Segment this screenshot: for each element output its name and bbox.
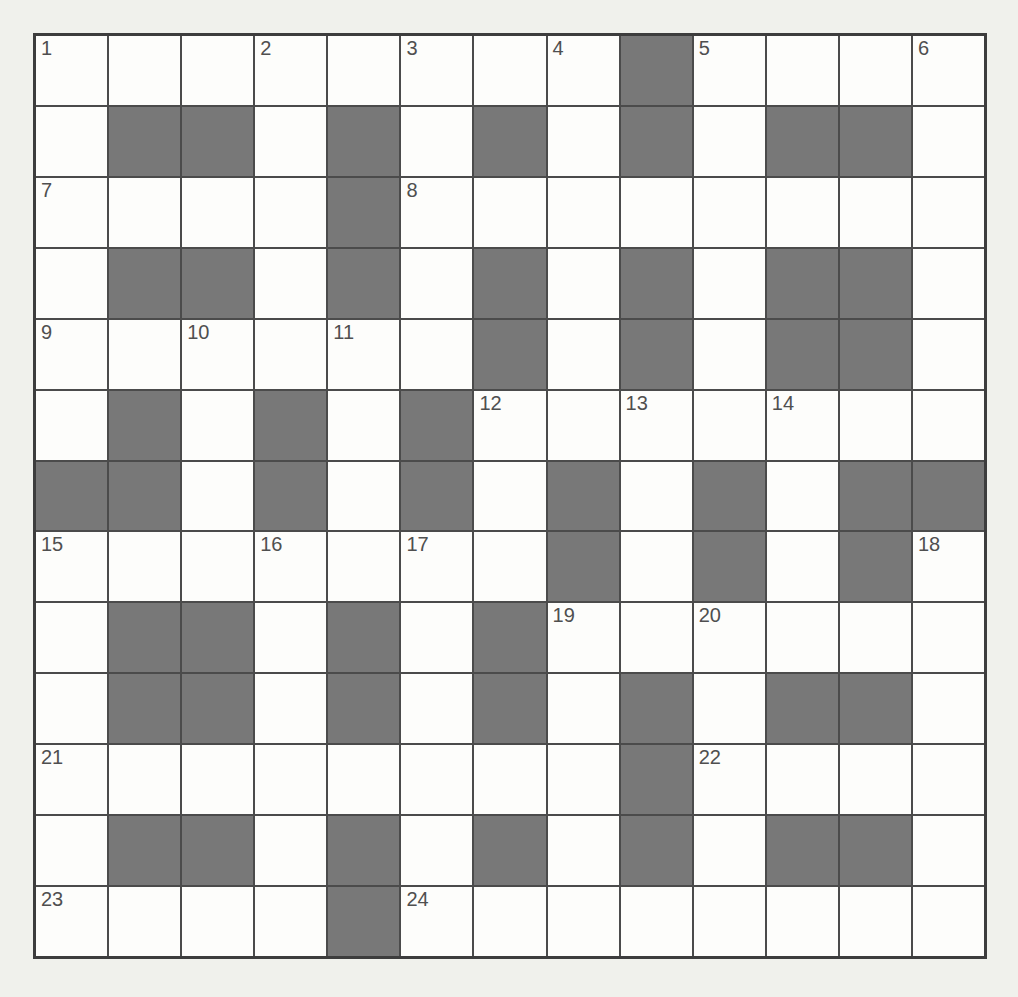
answer-cell[interactable] <box>328 745 399 814</box>
answer-cell[interactable] <box>621 603 692 672</box>
answer-cell[interactable] <box>913 745 984 814</box>
answer-cell[interactable] <box>840 745 911 814</box>
answer-cell[interactable] <box>328 462 399 531</box>
answer-cell[interactable] <box>621 887 692 956</box>
answer-cell[interactable] <box>840 887 911 956</box>
answer-cell[interactable] <box>182 178 253 247</box>
answer-cell[interactable] <box>913 249 984 318</box>
answer-cell[interactable] <box>255 745 326 814</box>
answer-cell[interactable] <box>401 249 472 318</box>
answer-cell[interactable] <box>109 178 180 247</box>
answer-cell[interactable]: 12 <box>474 391 545 460</box>
answer-cell[interactable] <box>548 249 619 318</box>
answer-cell[interactable] <box>913 816 984 885</box>
answer-cell[interactable] <box>694 249 765 318</box>
answer-cell[interactable] <box>401 603 472 672</box>
answer-cell[interactable] <box>255 107 326 176</box>
answer-cell[interactable] <box>694 816 765 885</box>
answer-cell[interactable] <box>36 603 107 672</box>
answer-cell[interactable] <box>109 745 180 814</box>
answer-cell[interactable] <box>182 532 253 601</box>
answer-cell[interactable] <box>401 107 472 176</box>
answer-cell[interactable] <box>913 674 984 743</box>
answer-cell[interactable] <box>548 816 619 885</box>
answer-cell[interactable] <box>767 36 838 105</box>
answer-cell[interactable]: 18 <box>913 532 984 601</box>
answer-cell[interactable]: 5 <box>694 36 765 105</box>
answer-cell[interactable]: 19 <box>548 603 619 672</box>
answer-cell[interactable] <box>255 603 326 672</box>
answer-cell[interactable] <box>36 107 107 176</box>
answer-cell[interactable] <box>109 887 180 956</box>
answer-cell[interactable] <box>401 320 472 389</box>
answer-cell[interactable]: 21 <box>36 745 107 814</box>
answer-cell[interactable] <box>548 178 619 247</box>
answer-cell[interactable] <box>255 178 326 247</box>
answer-cell[interactable] <box>767 462 838 531</box>
answer-cell[interactable] <box>840 178 911 247</box>
answer-cell[interactable]: 24 <box>401 887 472 956</box>
answer-cell[interactable] <box>840 391 911 460</box>
answer-cell[interactable] <box>694 178 765 247</box>
answer-cell[interactable] <box>328 36 399 105</box>
answer-cell[interactable]: 6 <box>913 36 984 105</box>
answer-cell[interactable] <box>182 36 253 105</box>
answer-cell[interactable] <box>36 674 107 743</box>
answer-cell[interactable] <box>109 320 180 389</box>
answer-cell[interactable] <box>36 249 107 318</box>
answer-cell[interactable] <box>182 391 253 460</box>
answer-cell[interactable]: 23 <box>36 887 107 956</box>
answer-cell[interactable] <box>548 745 619 814</box>
answer-cell[interactable] <box>255 887 326 956</box>
answer-cell[interactable]: 16 <box>255 532 326 601</box>
answer-cell[interactable] <box>474 745 545 814</box>
answer-cell[interactable] <box>401 745 472 814</box>
answer-cell[interactable] <box>913 107 984 176</box>
answer-cell[interactable] <box>767 887 838 956</box>
answer-cell[interactable] <box>109 36 180 105</box>
answer-cell[interactable] <box>474 36 545 105</box>
answer-cell[interactable] <box>548 391 619 460</box>
answer-cell[interactable] <box>767 603 838 672</box>
answer-cell[interactable] <box>182 745 253 814</box>
answer-cell[interactable] <box>913 178 984 247</box>
answer-cell[interactable] <box>913 887 984 956</box>
answer-cell[interactable] <box>548 320 619 389</box>
answer-cell[interactable] <box>621 178 692 247</box>
answer-cell[interactable]: 2 <box>255 36 326 105</box>
answer-cell[interactable]: 9 <box>36 320 107 389</box>
answer-cell[interactable]: 22 <box>694 745 765 814</box>
answer-cell[interactable]: 11 <box>328 320 399 389</box>
answer-cell[interactable] <box>474 178 545 247</box>
answer-cell[interactable] <box>840 603 911 672</box>
answer-cell[interactable] <box>548 887 619 956</box>
answer-cell[interactable] <box>694 674 765 743</box>
answer-cell[interactable] <box>767 532 838 601</box>
answer-cell[interactable] <box>694 320 765 389</box>
answer-cell[interactable] <box>328 391 399 460</box>
answer-cell[interactable] <box>401 674 472 743</box>
answer-cell[interactable] <box>474 887 545 956</box>
answer-cell[interactable]: 17 <box>401 532 472 601</box>
answer-cell[interactable] <box>109 532 180 601</box>
answer-cell[interactable] <box>694 391 765 460</box>
answer-cell[interactable] <box>474 462 545 531</box>
answer-cell[interactable]: 15 <box>36 532 107 601</box>
answer-cell[interactable]: 14 <box>767 391 838 460</box>
answer-cell[interactable]: 10 <box>182 320 253 389</box>
answer-cell[interactable] <box>255 674 326 743</box>
answer-cell[interactable] <box>182 887 253 956</box>
answer-cell[interactable] <box>840 36 911 105</box>
answer-cell[interactable] <box>767 178 838 247</box>
answer-cell[interactable] <box>621 462 692 531</box>
answer-cell[interactable]: 7 <box>36 178 107 247</box>
answer-cell[interactable] <box>328 532 399 601</box>
answer-cell[interactable]: 13 <box>621 391 692 460</box>
answer-cell[interactable] <box>474 532 545 601</box>
answer-cell[interactable] <box>255 249 326 318</box>
answer-cell[interactable] <box>36 391 107 460</box>
answer-cell[interactable] <box>621 532 692 601</box>
answer-cell[interactable]: 20 <box>694 603 765 672</box>
answer-cell[interactable] <box>182 462 253 531</box>
answer-cell[interactable] <box>255 320 326 389</box>
